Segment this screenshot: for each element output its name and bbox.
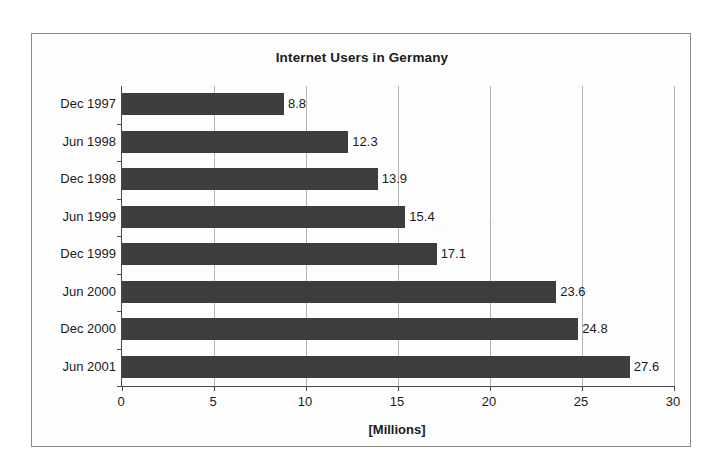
bar-row: 17.1 bbox=[122, 236, 674, 274]
x-axis-ticks bbox=[122, 386, 674, 391]
x-tick-5 bbox=[214, 386, 215, 391]
x-tick-label-0: 0 bbox=[117, 394, 124, 410]
bar-dec-1998 bbox=[122, 168, 378, 190]
bar-value-label: 17.1 bbox=[441, 246, 466, 262]
x-axis-tick-labels: 051015202530 bbox=[121, 394, 673, 412]
y-tick-label-dec-1998: Dec 1998 bbox=[26, 171, 116, 187]
y-axis-category-labels: Dec 1997Jun 1998Dec 1998Jun 1999Dec 1999… bbox=[32, 86, 116, 386]
x-tick-10 bbox=[306, 386, 307, 391]
x-tick-15 bbox=[398, 386, 399, 391]
bar-row: 8.8 bbox=[122, 86, 674, 124]
x-tick-25 bbox=[582, 386, 583, 391]
bar-value-label: 12.3 bbox=[352, 134, 377, 150]
bar-row: 15.4 bbox=[122, 199, 674, 237]
bar-row: 27.6 bbox=[122, 349, 674, 387]
bar-jun-1999 bbox=[122, 206, 405, 228]
x-tick-label-20: 20 bbox=[482, 394, 496, 410]
bar-value-label: 27.6 bbox=[634, 359, 659, 375]
bar-value-label: 13.9 bbox=[382, 171, 407, 187]
x-tick-label-5: 5 bbox=[209, 394, 216, 410]
bar-row: 24.8 bbox=[122, 311, 674, 349]
x-tick-30 bbox=[674, 386, 675, 391]
bar-row: 13.9 bbox=[122, 161, 674, 199]
bar-jun-1998 bbox=[122, 131, 348, 153]
y-tick-label-jun-1999: Jun 1999 bbox=[26, 209, 116, 225]
bar-dec-1999 bbox=[122, 243, 437, 265]
bar-dec-2000 bbox=[122, 318, 578, 340]
x-tick-20 bbox=[490, 386, 491, 391]
x-tick-label-25: 25 bbox=[574, 394, 588, 410]
bar-jun-2001 bbox=[122, 356, 630, 378]
chart-frame: Internet Users in Germany Dec 1997Jun 19… bbox=[31, 33, 691, 447]
x-tick-label-10: 10 bbox=[298, 394, 312, 410]
bar-row: 12.3 bbox=[122, 124, 674, 162]
bar-value-label: 8.8 bbox=[288, 96, 306, 112]
y-tick-label-jun-2001: Jun 2001 bbox=[26, 359, 116, 375]
bar-jun-2000 bbox=[122, 281, 556, 303]
y-tick-label-dec-2000: Dec 2000 bbox=[26, 321, 116, 337]
bar-series: 8.812.313.915.417.123.624.827.6 bbox=[122, 86, 674, 386]
y-tick-label-jun-2000: Jun 2000 bbox=[26, 284, 116, 300]
x-tick-0 bbox=[122, 386, 123, 391]
bar-value-label: 23.6 bbox=[560, 284, 585, 300]
chart-title: Internet Users in Germany bbox=[32, 50, 692, 65]
bar-row: 23.6 bbox=[122, 274, 674, 312]
gridline-30 bbox=[674, 86, 675, 386]
bar-dec-1997 bbox=[122, 93, 284, 115]
bar-value-label: 15.4 bbox=[409, 209, 434, 225]
y-tick-label-dec-1997: Dec 1997 bbox=[26, 96, 116, 112]
y-tick-label-jun-1998: Jun 1998 bbox=[26, 134, 116, 150]
plot-area: 8.812.313.915.417.123.624.827.6 bbox=[121, 86, 674, 387]
x-tick-label-15: 15 bbox=[390, 394, 404, 410]
bar-value-label: 24.8 bbox=[582, 321, 607, 337]
chart-page: Internet Users in Germany Dec 1997Jun 19… bbox=[0, 0, 724, 474]
x-axis-title: [Millions] bbox=[121, 422, 673, 437]
x-tick-label-30: 30 bbox=[666, 394, 680, 410]
y-tick-label-dec-1999: Dec 1999 bbox=[26, 246, 116, 262]
